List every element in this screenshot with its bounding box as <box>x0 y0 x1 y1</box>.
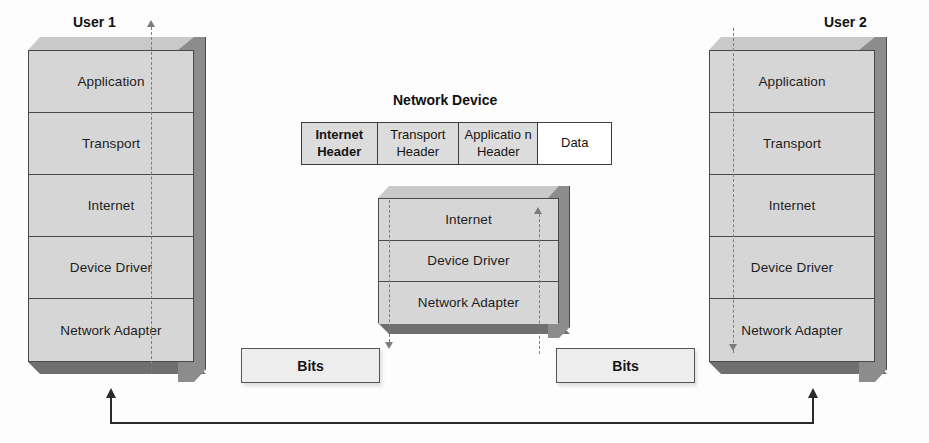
layer-label: Application <box>77 74 144 89</box>
packet-cell-application-header[interactable]: Applicatio n Header <box>459 123 538 164</box>
user2-top-face <box>709 37 887 50</box>
user2-layer-transport[interactable]: Transport <box>710 113 874 175</box>
bits-box-left[interactable]: Bits <box>241 348 380 383</box>
device-outbound-arrow-up-icon <box>534 207 542 214</box>
user1-layer-network-adapter[interactable]: Network Adapter <box>29 299 193 361</box>
user1-layer-transport[interactable]: Transport <box>29 113 193 175</box>
device-layer-network-adapter[interactable]: Network Adapter <box>379 282 558 324</box>
physical-link-arrow-right-icon <box>808 388 818 398</box>
user2-flow-arrow-down-icon <box>729 344 737 351</box>
layer-label: Device Driver <box>427 253 509 268</box>
device-outbound-dashed-line <box>539 214 540 354</box>
device-layer-device-driver[interactable]: Device Driver <box>379 241 558 283</box>
user1-stack: Application Transport Internet Device Dr… <box>28 50 194 362</box>
user1-title: User 1 <box>73 14 116 30</box>
layer-label: Internet <box>445 212 492 227</box>
packet-cell-internet-header[interactable]: Internet Header <box>302 123 378 164</box>
user2-title: User 2 <box>824 14 867 30</box>
user2-layer-application[interactable]: Application <box>710 51 874 113</box>
user1-layer-device-driver[interactable]: Device Driver <box>29 237 193 299</box>
bits-box-right[interactable]: Bits <box>556 348 695 383</box>
physical-link-riser-left <box>110 398 112 423</box>
physical-link-arrow-left-icon <box>106 388 116 398</box>
layer-label: Network Adapter <box>60 323 161 338</box>
packet-header-table: Internet Header Transport Header Applica… <box>301 122 612 165</box>
user1-top-face <box>28 37 206 50</box>
physical-link-riser-right <box>812 398 814 423</box>
layer-label: Network Adapter <box>418 295 519 310</box>
user2-layer-network-adapter[interactable]: Network Adapter <box>710 299 874 361</box>
packet-cell-transport-header[interactable]: Transport Header <box>378 123 459 164</box>
layer-label: Network Adapter <box>741 323 842 338</box>
device-layer-internet[interactable]: Internet <box>379 199 558 241</box>
user2-layer-internet[interactable]: Internet <box>710 175 874 237</box>
layer-label: Internet <box>88 198 135 213</box>
layer-label: Internet <box>769 198 816 213</box>
user1-flow-dashed-line <box>151 27 152 374</box>
network-stack-diagram: User 1 Application Transport Internet De… <box>0 0 929 443</box>
device-inbound-arrow-down-icon <box>385 342 393 349</box>
user2-flow-dashed-line <box>733 28 734 353</box>
user1-layer-internet[interactable]: Internet <box>29 175 193 237</box>
layer-label: Application <box>758 74 825 89</box>
layer-label: Transport <box>82 136 140 151</box>
network-device-bottom-face <box>378 323 570 343</box>
physical-link-horizontal <box>110 422 814 424</box>
packet-cell-data[interactable]: Data <box>538 123 611 164</box>
device-inbound-dashed-line <box>389 200 390 342</box>
user1-layer-application[interactable]: Application <box>29 51 193 113</box>
layer-label: Transport <box>763 136 821 151</box>
network-device-top-face <box>378 186 570 198</box>
user2-layer-device-driver[interactable]: Device Driver <box>710 237 874 299</box>
layer-label: Device Driver <box>751 260 833 275</box>
user1-flow-arrow-up-icon <box>147 20 155 27</box>
network-device-stack: Internet Device Driver Network Adapter <box>378 198 559 323</box>
network-device-title: Network Device <box>393 92 497 108</box>
layer-label: Device Driver <box>70 260 152 275</box>
